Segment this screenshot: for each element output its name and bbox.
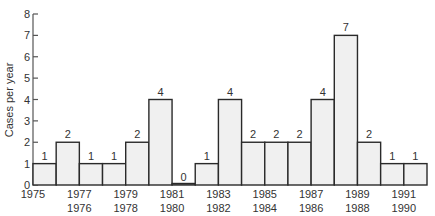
y-tick-label: 8 [24, 8, 30, 20]
bar-1980 [149, 100, 172, 186]
x-tick-label: 1978 [113, 202, 137, 214]
x-tick-label: 1984 [253, 202, 277, 214]
x-tick-label: 1991 [392, 188, 416, 200]
data-label: 1 [412, 150, 418, 162]
y-tick-label: 7 [24, 29, 30, 41]
bar-1982 [195, 164, 218, 185]
y-axis-title: Cases per year [3, 62, 15, 137]
bars [33, 35, 427, 185]
bar-1991 [404, 164, 427, 185]
bar-chart: 012345678 12112401422247211 197519761977… [0, 0, 435, 216]
bar-1987 [311, 100, 334, 186]
data-label: 2 [296, 128, 302, 140]
data-label: 7 [343, 21, 349, 33]
bar-1983 [218, 100, 241, 186]
x-tick-label: 1982 [206, 202, 230, 214]
bar-1989 [357, 142, 380, 185]
data-label: 1 [111, 150, 117, 162]
x-tick-label: 1977 [67, 188, 91, 200]
x-tick-label: 1976 [67, 202, 91, 214]
y-tick-label: 6 [24, 51, 30, 63]
x-tick-label: 1975 [21, 188, 45, 200]
y-tick-label: 4 [24, 94, 30, 106]
bar-1981 [172, 184, 195, 186]
data-label: 4 [157, 86, 163, 98]
bar-1979 [126, 142, 149, 185]
bar-1977 [79, 164, 102, 185]
bar-1975 [33, 164, 56, 185]
x-tick-label: 1986 [299, 202, 323, 214]
x-tick-label: 1983 [206, 188, 230, 200]
data-label: 2 [366, 128, 372, 140]
x-tick-label: 1987 [299, 188, 323, 200]
x-tick-label: 1985 [253, 188, 277, 200]
x-tick-label: 1989 [345, 188, 369, 200]
data-label: 0 [181, 171, 187, 183]
data-label: 1 [204, 150, 210, 162]
data-label: 1 [42, 150, 48, 162]
x-axis-labels: 1975197619771978197919801981198219831984… [21, 188, 416, 214]
bar-1985 [265, 142, 288, 185]
data-label: 2 [273, 128, 279, 140]
y-tick-label: 2 [24, 136, 30, 148]
bar-1978 [103, 164, 126, 185]
bar-1986 [288, 142, 311, 185]
data-label: 2 [65, 128, 71, 140]
data-label: 4 [227, 86, 233, 98]
x-tick-label: 1990 [392, 202, 416, 214]
x-tick-label: 1979 [113, 188, 137, 200]
y-tick-label: 1 [24, 158, 30, 170]
y-tick-label: 3 [24, 115, 30, 127]
bar-1990 [381, 164, 404, 185]
x-tick-label: 1980 [160, 202, 184, 214]
bar-1976 [56, 142, 79, 185]
data-label: 1 [389, 150, 395, 162]
bar-1984 [242, 142, 265, 185]
x-tick-label: 1981 [160, 188, 184, 200]
data-label: 4 [320, 86, 326, 98]
data-label: 1 [88, 150, 94, 162]
y-tick-label: 5 [24, 72, 30, 84]
x-tick-label: 1988 [345, 202, 369, 214]
data-label: 2 [250, 128, 256, 140]
data-label: 2 [134, 128, 140, 140]
bar-1988 [334, 35, 357, 185]
